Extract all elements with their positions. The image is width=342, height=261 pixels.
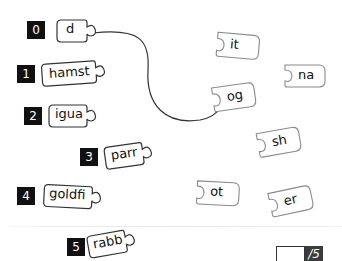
stem-piece-0[interactable]: d [55, 18, 103, 44]
item-number-0: 0 [27, 21, 45, 39]
score-box: /5 [276, 246, 323, 261]
item-number-5: 5 [67, 238, 85, 256]
item-number-1: 1 [17, 65, 35, 83]
item-number-3: 3 [80, 148, 98, 166]
section-divider [10, 226, 342, 227]
stem-piece-2[interactable]: igua [47, 103, 103, 129]
puzzle-piece-knob-icon [55, 18, 103, 44]
item-number-2: 2 [24, 107, 42, 125]
score-total: /5 [305, 246, 323, 261]
stem-piece-1[interactable]: hamst [39, 56, 115, 89]
stem-piece-4[interactable]: goldfi [41, 181, 110, 213]
ending-piece-it[interactable]: it [214, 30, 262, 62]
matching-exercise: 0 d 1 hamst 2 igua 3 parr 4 goldfi [0, 0, 342, 261]
ending-piece-na[interactable]: na [283, 63, 327, 89]
score-input[interactable] [276, 246, 305, 261]
item-number-4: 4 [17, 187, 35, 205]
ending-piece-ot[interactable]: ot [194, 179, 241, 208]
